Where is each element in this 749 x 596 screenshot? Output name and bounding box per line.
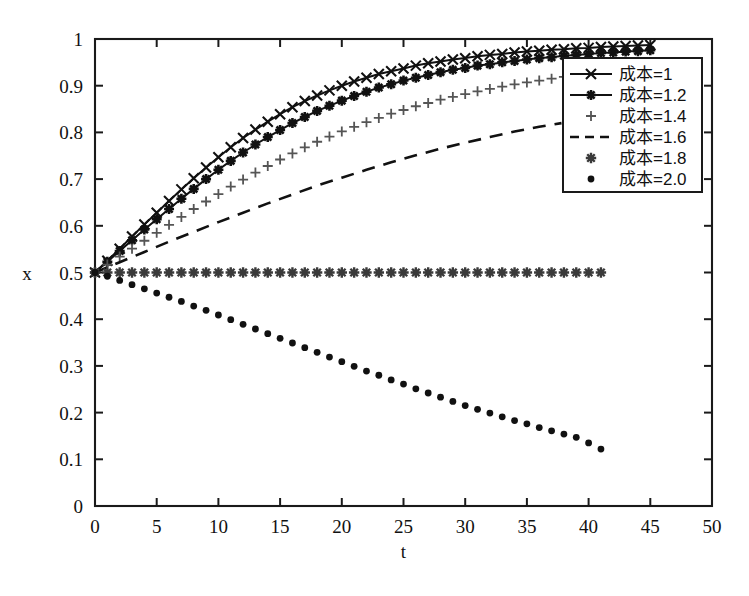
series-marker: [398, 267, 408, 277]
series-marker: [473, 61, 483, 71]
series-marker: [510, 56, 520, 66]
series-marker: [351, 363, 358, 370]
y-tick-label: 0.4: [59, 309, 83, 330]
series-marker: [448, 65, 458, 75]
series-marker: [324, 85, 334, 95]
series-marker: [546, 267, 556, 277]
series-marker: [300, 112, 310, 122]
series-marker: [338, 358, 345, 365]
series-marker: [497, 82, 507, 92]
series-marker: [412, 385, 419, 392]
series-marker: [139, 236, 149, 246]
x-tick-label: 25: [394, 516, 413, 537]
series-marker: [349, 76, 359, 86]
series-marker: [337, 267, 347, 277]
series-marker: [486, 410, 493, 417]
series-marker: [166, 294, 173, 301]
series-marker: [460, 63, 470, 73]
y-tick-label: 1: [74, 29, 84, 50]
series-marker: [411, 267, 421, 277]
series-marker: [361, 87, 371, 97]
series-marker: [289, 340, 296, 347]
series-marker: [633, 46, 643, 56]
series-marker: [252, 326, 259, 333]
y-axis-title: x: [22, 263, 32, 284]
series-marker: [213, 267, 223, 277]
series-marker: [349, 267, 359, 277]
legend-label: 成本=1.2: [619, 86, 687, 105]
series-marker: [436, 95, 446, 105]
x-tick-label: 20: [332, 516, 351, 537]
x-tick-label: 0: [90, 516, 100, 537]
series-marker: [386, 109, 396, 119]
series-marker: [176, 184, 186, 194]
legend-label: 成本=2.0: [619, 170, 687, 189]
series-marker: [275, 267, 285, 277]
series-marker: [437, 394, 444, 401]
series-marker: [548, 427, 555, 434]
series-marker: [449, 398, 456, 405]
series-marker: [472, 267, 482, 277]
y-tick-label: 0.8: [59, 122, 83, 143]
legend-label: 成本=1: [619, 65, 672, 84]
series-marker: [250, 168, 260, 178]
series-marker: [314, 349, 321, 356]
series-marker: [215, 312, 222, 319]
series-marker: [485, 267, 495, 277]
series-marker: [104, 273, 111, 280]
series-marker: [213, 165, 223, 175]
series-marker: [189, 204, 199, 214]
series-marker: [522, 77, 532, 87]
series-marker: [263, 117, 273, 127]
series-marker: [263, 161, 273, 171]
series-marker: [189, 267, 199, 277]
legend-layer: 成本=1成本=1.2成本=1.4成本=1.6成本=1.8成本=2.0: [563, 58, 702, 192]
series-marker: [201, 197, 211, 207]
series-marker: [226, 142, 236, 152]
x-axis-title: t: [401, 541, 407, 562]
y-tick-label: 0: [74, 496, 84, 517]
series-marker: [473, 86, 483, 96]
series-marker: [474, 406, 481, 413]
series-marker: [337, 96, 347, 106]
series-marker: [386, 79, 396, 89]
series-marker: [277, 335, 284, 342]
series-marker: [423, 267, 433, 277]
series-marker: [645, 45, 655, 55]
series-marker: [375, 372, 382, 379]
series-marker: [374, 267, 384, 277]
series-marker: [226, 156, 236, 166]
series-marker: [300, 267, 310, 277]
series-marker: [522, 55, 532, 65]
series-marker: [129, 281, 136, 288]
series-marker: [388, 377, 395, 384]
series-marker: [573, 434, 580, 441]
y-tick-label: 0.7: [59, 169, 83, 190]
series-marker: [511, 417, 518, 424]
series-marker: [300, 96, 310, 106]
series-marker: [399, 105, 409, 115]
series-marker: [114, 267, 124, 277]
series-marker: [312, 91, 322, 101]
series-6: [92, 269, 605, 452]
series-marker: [250, 267, 260, 277]
series-marker: [585, 440, 592, 447]
series-marker: [534, 76, 544, 86]
series-marker: [152, 267, 162, 277]
series-marker: [153, 290, 160, 297]
x-tick-label: 5: [152, 516, 162, 537]
series-marker: [326, 354, 333, 361]
series-marker: [312, 106, 322, 116]
x-tick-label: 35: [517, 516, 536, 537]
series-marker: [275, 154, 285, 164]
series-marker: [250, 125, 260, 135]
series-marker: [139, 225, 149, 235]
series-marker: [190, 303, 197, 310]
series-marker: [164, 220, 174, 230]
series-marker: [361, 117, 371, 127]
series-marker: [287, 267, 297, 277]
series-marker: [240, 321, 247, 328]
series-marker: [275, 125, 285, 135]
chart-canvas: 0510152025303540455000.10.20.30.40.50.60…: [0, 0, 749, 596]
series-marker: [203, 307, 210, 314]
